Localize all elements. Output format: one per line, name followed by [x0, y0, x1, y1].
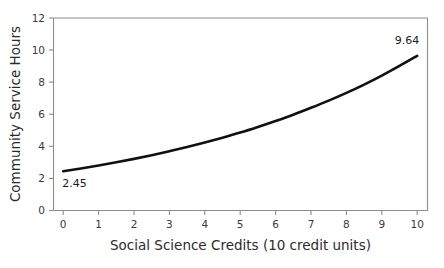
chart-figure: 0 2 4 6 8 10 12 0 1 2 3 4: [0, 0, 444, 268]
x-axis-title: Social Science Credits (10 credit units): [110, 237, 371, 253]
x-tick-label: 8: [343, 218, 350, 230]
plot-frame: [54, 18, 429, 211]
y-tick-label: 8: [38, 76, 45, 88]
y-tick-label: 6: [38, 108, 45, 120]
x-tick-label: 5: [237, 218, 244, 230]
x-tick-label: 6: [272, 218, 279, 230]
x-tick-label: 7: [308, 218, 315, 230]
x-tick-label: 0: [60, 218, 67, 230]
x-tick-label: 9: [378, 218, 385, 230]
y-tick-label: 4: [38, 140, 45, 152]
x-tick-label: 4: [201, 218, 208, 230]
x-tick-label: 10: [411, 218, 424, 230]
x-tick-labels: 0 1 2 3 4 5 6 7 8 9 10: [60, 218, 424, 230]
x-tick-label: 3: [166, 218, 173, 230]
y-tick-labels: 0 2 4 6 8 10 12: [32, 12, 46, 217]
x-tick-label: 2: [131, 218, 138, 230]
y-tick-label: 2: [38, 172, 45, 184]
start-point-label: 2.45: [62, 177, 86, 190]
data-curve: [63, 56, 417, 171]
line-chart: 0 2 4 6 8 10 12 0 1 2 3 4: [0, 0, 444, 268]
y-axis-title: Community Service Hours: [7, 26, 23, 202]
y-tick-label: 10: [32, 44, 45, 56]
x-tick-label: 1: [95, 218, 102, 230]
y-tick-label: 12: [32, 12, 45, 24]
y-tick-label: 0: [38, 204, 45, 216]
y-axis-ticks: [49, 18, 54, 211]
end-point-label: 9.64: [395, 34, 420, 47]
x-axis-ticks: [63, 211, 417, 216]
